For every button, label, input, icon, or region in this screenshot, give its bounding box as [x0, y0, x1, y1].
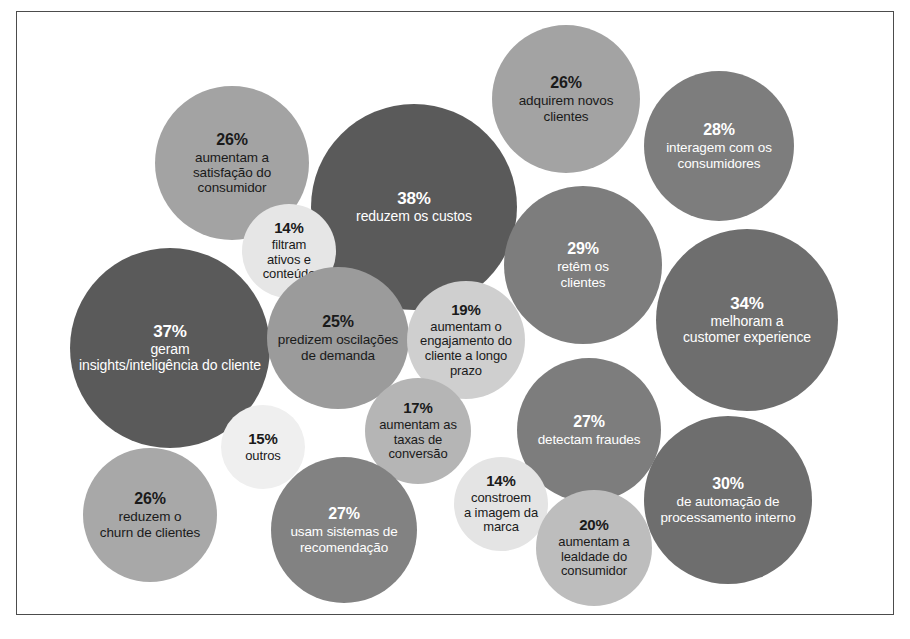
bubble-label: retêm osclientes — [557, 259, 609, 290]
bubble-label-line: consumidor — [193, 180, 271, 195]
bubble-label-line: usam sistemas de — [290, 524, 397, 539]
bubble-label-line: adquirem novos — [519, 93, 614, 108]
bubble-percent-value: 29% — [567, 240, 599, 258]
bubble-label-line: reduzem os custos — [356, 209, 472, 225]
bubble-label-line: melhoram a — [683, 314, 811, 330]
bubble-label-line: ativos e — [263, 253, 316, 268]
bubble-melhoram-customer-experience[interactable]: 34%melhoram acustomer experience — [656, 229, 838, 411]
bubble-label-line: de demanda — [278, 348, 398, 363]
bubble-churn-de-clientes[interactable]: 26%reduzem ochurn de clientes — [83, 448, 217, 582]
bubble-label-line: aumentam o — [420, 320, 512, 335]
bubble-percent-value: 26% — [216, 131, 248, 149]
bubble-label: interagem com osconsumidores — [666, 140, 772, 171]
bubble-label-line: retêm os — [557, 259, 609, 274]
bubble-chart-canvas: 26%aumentam asatisfação doconsumidor26%a… — [0, 0, 910, 639]
bubble-label-line: de automação de — [660, 494, 795, 509]
bubble-label-line: aumentam a — [558, 535, 629, 550]
bubble-label: aumentam astaxas deconversão — [379, 418, 457, 462]
bubble-label-line: churn de clientes — [100, 525, 200, 540]
bubble-percent-value: 26% — [550, 74, 582, 92]
bubble-label-line: marca — [464, 520, 538, 535]
bubble-percent-value: 37% — [153, 322, 187, 341]
bubble-label-line: filtram — [263, 238, 316, 253]
bubble-percent-value: 30% — [712, 475, 744, 493]
bubble-outros[interactable]: 15%outros — [221, 405, 305, 489]
bubble-label: de automação deprocessamento interno — [660, 494, 795, 525]
bubble-label-line: consumidor — [558, 564, 629, 579]
bubble-percent-value: 14% — [274, 220, 304, 237]
bubble-adquirem-novos-clientes[interactable]: 26%adquirem novosclientes — [492, 25, 640, 173]
bubble-label: reduzem ochurn de clientes — [100, 509, 200, 540]
bubble-label: usam sistemas derecomendação — [290, 524, 397, 555]
bubble-plot-area: 26%aumentam asatisfação doconsumidor26%a… — [0, 0, 910, 639]
bubble-label: outros — [245, 449, 281, 464]
bubble-label-line: satisfação do — [193, 165, 271, 180]
bubble-percent-value: 27% — [573, 413, 605, 431]
bubble-retem-clientes[interactable]: 29%retêm osclientes — [504, 186, 662, 344]
bubble-percent-value: 20% — [579, 517, 609, 534]
bubble-label: aumentam oengajamento docliente a longop… — [420, 320, 512, 379]
bubble-label-line: cliente a longo — [420, 349, 512, 364]
bubble-percent-value: 26% — [134, 490, 166, 508]
bubble-label-line: prazo — [420, 364, 512, 379]
bubble-label-line: constroem — [464, 491, 538, 506]
bubble-label: adquirem novosclientes — [519, 93, 614, 124]
bubble-percent-value: 19% — [451, 302, 481, 319]
bubble-label-line: conversão — [379, 447, 457, 462]
bubble-label-line: reduzem o — [100, 509, 200, 524]
bubble-interagem-consumidores[interactable]: 28%interagem com osconsumidores — [644, 71, 794, 221]
bubble-label-line: clientes — [519, 109, 614, 124]
bubble-label-line: a imagem da — [464, 506, 538, 521]
bubble-label: aumentam asatisfação doconsumidor — [193, 150, 271, 196]
bubble-label-line: recomendação — [290, 540, 397, 555]
bubble-label: melhoram acustomer experience — [683, 314, 811, 346]
bubble-label-line: aumentam a — [193, 150, 271, 165]
bubble-percent-value: 25% — [322, 313, 354, 331]
bubble-lealdade-do-consumidor[interactable]: 20%aumentam alealdade doconsumidor — [536, 490, 652, 606]
bubble-label: geraminsights/inteligência do cliente — [79, 342, 261, 374]
bubble-label: predizem oscilaçõesde demanda — [278, 332, 398, 363]
bubble-percent-value: 38% — [397, 189, 431, 208]
bubble-label-line: geram — [79, 342, 261, 358]
bubble-sistemas-de-recomendacao[interactable]: 27%usam sistemas derecomendação — [271, 457, 417, 603]
bubble-label: reduzem os custos — [356, 209, 472, 225]
bubble-label-line: insights/inteligência do cliente — [79, 358, 261, 374]
bubble-label-line: processamento interno — [660, 510, 795, 525]
bubble-label-line: taxas de — [379, 433, 457, 448]
bubble-label: constroema imagem damarca — [464, 491, 538, 535]
bubble-label: detectam fraudes — [538, 432, 641, 447]
bubble-percent-value: 17% — [403, 400, 433, 417]
bubble-automacao-processamento-interno[interactable]: 30%de automação deprocessamento interno — [644, 416, 812, 584]
bubble-imagem-da-marca[interactable]: 14%constroema imagem damarca — [454, 457, 548, 551]
bubble-label-line: interagem com os — [666, 140, 772, 155]
bubble-percent-value: 15% — [248, 431, 278, 448]
bubble-percent-value: 34% — [730, 294, 764, 313]
bubble-label-line: predizem oscilações — [278, 332, 398, 347]
bubble-label-line: consumidores — [666, 156, 772, 171]
bubble-label-line: engajamento do — [420, 334, 512, 349]
bubble-label-line: clientes — [557, 275, 609, 290]
bubble-label-line: lealdade do — [558, 550, 629, 565]
bubble-label: aumentam alealdade doconsumidor — [558, 535, 629, 579]
bubble-percent-value: 27% — [328, 505, 360, 523]
bubble-label-line: detectam fraudes — [538, 432, 641, 447]
bubble-percent-value: 28% — [703, 121, 735, 139]
bubble-label-line: customer experience — [683, 330, 811, 346]
bubble-percent-value: 14% — [486, 473, 516, 490]
bubble-label-line: aumentam as — [379, 418, 457, 433]
bubble-label-line: outros — [245, 449, 281, 464]
